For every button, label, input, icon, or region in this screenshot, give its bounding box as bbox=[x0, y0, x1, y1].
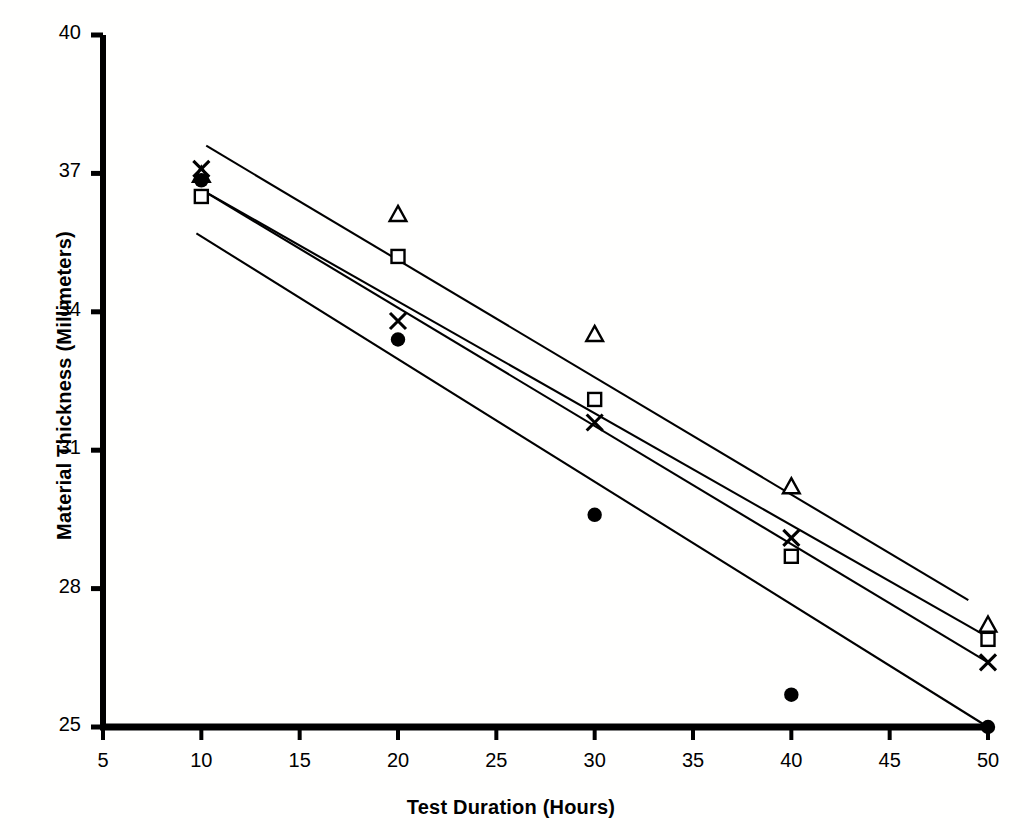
chart-figure: 252831343740 5101520253035404550 Test Du… bbox=[0, 0, 1022, 838]
trend-line-1 bbox=[206, 146, 968, 600]
y-tick-label: 40 bbox=[25, 21, 81, 44]
y-axis-title: Material Thickness (Millimeters) bbox=[53, 106, 76, 666]
trend-line-2 bbox=[201, 190, 988, 637]
scatter-plot-canvas bbox=[0, 0, 1022, 838]
data-point-circle-filled bbox=[587, 508, 601, 522]
data-point-square-open bbox=[785, 550, 798, 563]
data-point-triangle-open bbox=[586, 326, 603, 341]
data-point-circle-filled bbox=[981, 720, 995, 734]
data-point-x-cross bbox=[390, 313, 406, 329]
data-point-triangle-open bbox=[390, 206, 407, 221]
x-tick-label: 15 bbox=[270, 749, 330, 772]
x-tick-label: 30 bbox=[565, 749, 625, 772]
data-point-triangle-open bbox=[980, 617, 997, 632]
x-tick-label: 10 bbox=[171, 749, 231, 772]
trend-line-4 bbox=[196, 233, 988, 727]
data-point-circle-filled bbox=[391, 332, 405, 346]
x-tick-label: 40 bbox=[761, 749, 821, 772]
axes-group bbox=[91, 35, 992, 740]
x-tick-label: 5 bbox=[73, 749, 133, 772]
data-point-triangle-open bbox=[783, 478, 800, 493]
data-point-circle-filled bbox=[784, 688, 798, 702]
trend-line-3 bbox=[201, 190, 988, 663]
data-point-square-open bbox=[982, 633, 995, 646]
y-tick-label: 25 bbox=[25, 713, 81, 736]
data-point-square-open bbox=[588, 393, 601, 406]
data-markers-group bbox=[193, 161, 996, 734]
trend-lines-group bbox=[196, 146, 988, 727]
x-axis-title: Test Duration (Hours) bbox=[0, 796, 1022, 819]
data-point-x-cross bbox=[980, 654, 996, 670]
data-point-square-open bbox=[195, 190, 208, 203]
x-tick-label: 45 bbox=[860, 749, 920, 772]
x-tick-label: 25 bbox=[466, 749, 526, 772]
x-tick-label: 50 bbox=[958, 749, 1018, 772]
x-tick-label: 20 bbox=[368, 749, 428, 772]
data-point-square-open bbox=[392, 250, 405, 263]
data-point-circle-filled bbox=[194, 173, 208, 187]
x-tick-label: 35 bbox=[663, 749, 723, 772]
